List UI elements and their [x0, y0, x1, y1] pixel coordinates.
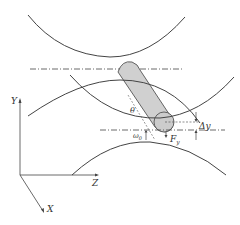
delta-y-arrowhead-bottom — [195, 130, 198, 133]
roller — [118, 62, 174, 132]
y-axis-arrowhead — [19, 98, 22, 103]
force-y-arrowhead — [165, 135, 168, 138]
coordinate-axes: Y Z X — [11, 96, 99, 214]
delta-y-arrowhead-top — [195, 119, 198, 122]
z-axis-arrowhead — [95, 174, 99, 177]
y-axis-label: Y — [11, 96, 18, 106]
lower-roll-arc — [72, 142, 226, 175]
delta-y-label: Δy — [198, 121, 211, 131]
contact-geometry-diagram: θ Δy Fy ω0 Y Z X — [0, 0, 240, 225]
x-axis-label: X — [46, 204, 54, 214]
force-y-label: Fy — [169, 134, 180, 146]
theta-label: θ — [130, 106, 135, 115]
z-axis-label: Z — [91, 178, 99, 188]
upper-roll-arc — [28, 15, 185, 57]
x-axis — [20, 175, 43, 211]
middle-arc-left — [28, 80, 200, 123]
omega0-label: ω0 — [133, 132, 143, 141]
